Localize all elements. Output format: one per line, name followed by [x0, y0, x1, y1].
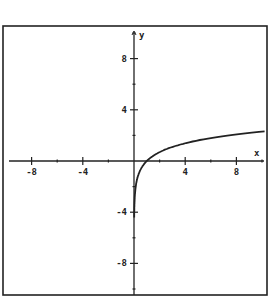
- y-axis-label: y: [139, 30, 145, 40]
- axes: [9, 31, 264, 295]
- y-tick-label: -8: [116, 258, 127, 268]
- y-tick-label: -4: [116, 207, 127, 217]
- x-axis-label: x: [254, 148, 260, 158]
- y-tick-label: 8: [122, 54, 127, 64]
- y-tick-label: 4: [122, 105, 128, 115]
- x-tick-label: 8: [234, 167, 239, 177]
- x-tick-label: 4: [182, 167, 188, 177]
- curve-ln-x: [134, 131, 264, 217]
- x-tick-label: -8: [26, 167, 37, 177]
- chart-canvas: -8-44884-4-8 x y: [0, 0, 277, 303]
- x-tick-label: -4: [77, 167, 88, 177]
